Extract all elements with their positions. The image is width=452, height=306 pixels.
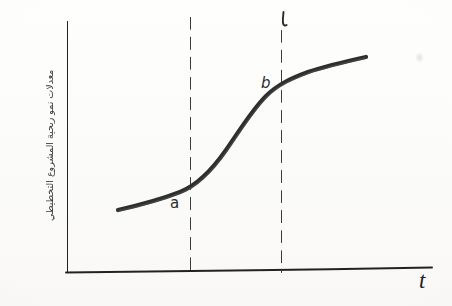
s-curve-line [118,57,366,210]
s-curve-shadow [118,58,366,211]
point-label-a: a [170,194,179,212]
point-label-b: b [261,74,271,92]
figure-canvas: معدلات نمو ربحية المشروع التخطيطي t a b [0,0,452,306]
x-axis-line [66,268,432,273]
hand-drawn-chart [0,0,452,306]
x-axis-label: t [419,268,425,294]
top-tick-mark-icon [283,12,287,25]
y-axis-label-text: معدلات نمو ربحية المشروع التخطيطي [44,70,55,221]
